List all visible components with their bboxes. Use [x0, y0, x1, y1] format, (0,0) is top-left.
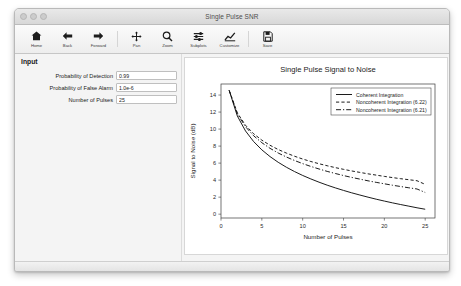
label-probability-of-false-alarm: Probability of False Alarm — [50, 85, 113, 91]
y-tick-label: 10 — [210, 126, 216, 132]
home-icon — [31, 29, 42, 43]
toolbar-button-home[interactable]: Home — [21, 29, 52, 49]
input-panel: Input Probability of Detection Probabili… — [15, 54, 182, 261]
window-title: Single Pulse SNR — [15, 13, 449, 20]
toolbar-label-forward: Forward — [91, 43, 106, 49]
y-tick-label: 12 — [210, 109, 216, 115]
input-number-of-pulses[interactable] — [116, 95, 177, 104]
toolbar-divider-1 — [117, 31, 118, 47]
floppy-disk-icon — [263, 29, 273, 43]
matplotlib-figure[interactable]: Single Pulse Signal to Noise051015202502… — [184, 57, 448, 255]
window-titlebar: Single Pulse SNR — [15, 9, 449, 25]
toolbar-button-subplots[interactable]: Subplots — [183, 29, 214, 49]
x-tick-label: 25 — [422, 223, 428, 229]
field-row-probability-of-detection: Probability of Detection — [15, 71, 181, 80]
arrow-right-icon — [93, 29, 104, 43]
input-probability-of-detection[interactable] — [116, 71, 177, 80]
label-number-of-pulses: Number of Pulses — [69, 97, 113, 103]
toolbar-label-back: Back — [63, 43, 72, 49]
x-tick-label: 20 — [381, 223, 387, 229]
input-probability-of-false-alarm[interactable] — [116, 83, 177, 92]
toolbar-button-back[interactable]: Back — [52, 29, 83, 49]
application-window: Single Pulse SNR Home Back — [14, 8, 450, 272]
field-row-number-of-pulses: Number of Pulses — [15, 95, 181, 104]
y-axis-label: Signal to Noise (dB) — [189, 123, 196, 178]
minimize-button[interactable] — [30, 13, 37, 20]
signal-to-noise-plot[interactable]: Single Pulse Signal to Noise051015202502… — [185, 58, 447, 254]
x-tick-label: 15 — [340, 223, 346, 229]
window-content: Input Probability of Detection Probabili… — [15, 54, 449, 261]
legend-label-3: Noncoherent Integration (6.21) — [356, 107, 427, 113]
toolbar-label-customize: Customize — [220, 43, 240, 49]
toolbar-label-subplots: Subplots — [190, 43, 206, 49]
x-tick-label: 10 — [300, 223, 306, 229]
chart-title: Single Pulse Signal to Noise — [280, 65, 375, 74]
x-tick-label: 0 — [219, 223, 222, 229]
figure-area: Single Pulse Signal to Noise051015202502… — [182, 54, 449, 261]
zoom-button[interactable] — [40, 13, 47, 20]
window-statusbar — [15, 261, 449, 271]
screenshot-root: Single Pulse SNR Home Back — [0, 0, 461, 286]
toolbar-label-zoom: Zoom — [162, 43, 173, 49]
toolbar-button-customize[interactable]: Customize — [214, 29, 245, 49]
toolbar-label-save: Save — [263, 43, 273, 49]
window-controls — [20, 13, 47, 20]
toolbar-label-home: Home — [31, 43, 42, 49]
toolbar-divider-2 — [248, 31, 249, 47]
x-tick-label: 5 — [260, 223, 263, 229]
input-panel-title: Input — [15, 58, 181, 71]
move-cross-icon — [131, 29, 142, 43]
toolbar-button-pan[interactable]: Pan — [121, 29, 152, 49]
figure-toolbar: Home Back Forward — [15, 25, 449, 54]
y-tick-label: 0 — [213, 211, 216, 217]
label-probability-of-detection: Probability of Detection — [55, 73, 113, 79]
toolbar-label-pan: Pan — [133, 43, 140, 49]
y-tick-label: 2 — [213, 194, 216, 200]
y-tick-label: 8 — [213, 143, 216, 149]
y-tick-label: 6 — [213, 160, 216, 166]
y-tick-label: 14 — [210, 92, 216, 98]
legend-label-2: Noncoherent Integration (6.22) — [356, 99, 427, 105]
toolbar-button-forward[interactable]: Forward — [83, 29, 114, 49]
y-tick-label: 4 — [213, 177, 216, 183]
line-chart-icon — [224, 29, 236, 43]
legend-label-1: Coherent Integration — [356, 92, 403, 98]
sliders-icon — [193, 29, 204, 43]
x-axis-label: Number of Pulses — [303, 233, 352, 240]
arrow-left-icon — [62, 29, 73, 43]
toolbar-button-zoom[interactable]: Zoom — [152, 29, 183, 49]
magnifier-icon — [162, 29, 173, 43]
close-button[interactable] — [20, 13, 27, 20]
field-row-probability-of-false-alarm: Probability of False Alarm — [15, 83, 181, 92]
toolbar-button-save[interactable]: Save — [252, 29, 283, 49]
